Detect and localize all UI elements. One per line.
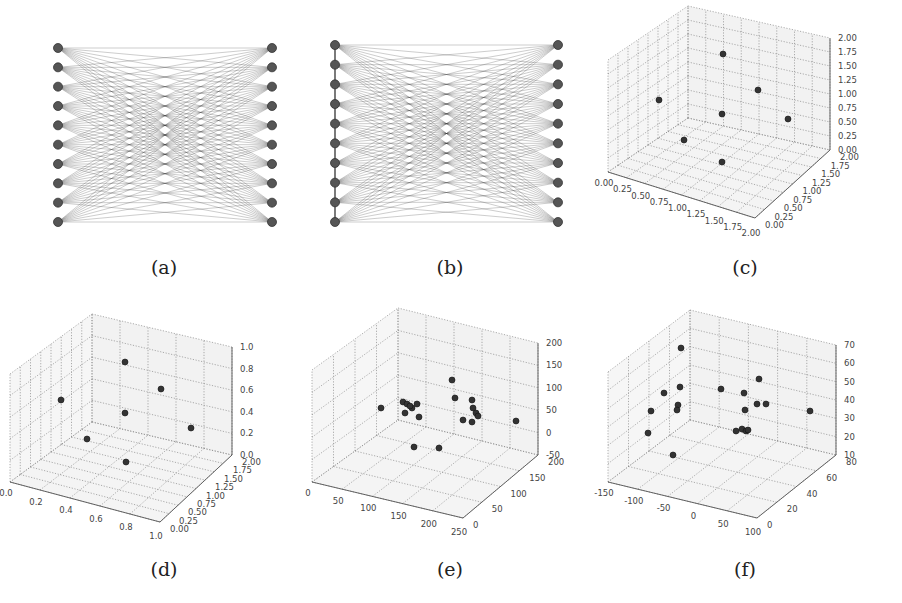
svg-text:40: 40 <box>844 395 855 405</box>
svg-text:0.50: 0.50 <box>784 203 803 213</box>
svg-text:0.25: 0.25 <box>613 184 632 194</box>
svg-text:0: 0 <box>305 488 310 498</box>
graph-node <box>268 82 277 91</box>
graph-node <box>268 44 277 53</box>
svg-text:1.50: 1.50 <box>705 216 724 226</box>
svg-text:0: 0 <box>473 520 478 530</box>
graph-node <box>268 140 277 149</box>
svg-text:0.50: 0.50 <box>838 117 857 127</box>
scatter3d-f: -150-100-5005010002040608010203040506070 <box>600 300 902 550</box>
data-point <box>402 410 408 416</box>
data-point <box>436 445 442 451</box>
data-point <box>123 459 129 465</box>
graph-node <box>268 198 277 207</box>
svg-text:150: 150 <box>546 360 562 370</box>
svg-text:50: 50 <box>546 405 557 415</box>
svg-text:1.0: 1.0 <box>240 342 254 352</box>
graph-node <box>54 198 63 207</box>
data-point <box>58 397 64 403</box>
data-point <box>411 444 417 450</box>
svg-text:150: 150 <box>390 511 406 521</box>
graph-node <box>268 121 277 130</box>
data-point <box>720 51 726 57</box>
graph-edges <box>335 45 558 222</box>
svg-text:2.00: 2.00 <box>742 228 761 238</box>
svg-text:0.0: 0.0 <box>0 488 13 498</box>
data-point <box>755 87 761 93</box>
data-point <box>648 408 654 414</box>
svg-text:1.00: 1.00 <box>668 203 687 213</box>
data-point <box>122 410 128 416</box>
data-point <box>754 401 760 407</box>
svg-text:0.6: 0.6 <box>240 385 254 395</box>
bipartite-graph-a <box>0 0 300 250</box>
svg-text:200: 200 <box>546 338 562 348</box>
panel-c-scatter3d: 0.000.250.500.751.001.251.501.752.000.00… <box>600 0 902 300</box>
svg-text:10: 10 <box>844 450 855 460</box>
data-point <box>513 418 519 424</box>
svg-text:100: 100 <box>511 489 527 499</box>
data-point <box>656 97 662 103</box>
data-point <box>674 407 680 413</box>
panel-b-bipartite-graph-chained: (b) <box>300 0 600 300</box>
svg-text:-150: -150 <box>594 488 613 498</box>
svg-text:-50: -50 <box>657 503 671 513</box>
data-point <box>756 376 762 382</box>
data-point <box>670 452 676 458</box>
svg-text:0.0: 0.0 <box>240 450 254 460</box>
svg-text:1.50: 1.50 <box>838 61 857 71</box>
svg-text:50: 50 <box>333 496 344 506</box>
svg-text:150: 150 <box>529 473 545 483</box>
svg-text:0.4: 0.4 <box>59 505 73 515</box>
data-point <box>122 359 128 365</box>
svg-text:0.8: 0.8 <box>240 364 254 374</box>
panel-e-scatter3d: 050100150200250050100150200-500501001502… <box>300 300 600 603</box>
svg-text:0.6: 0.6 <box>89 514 103 524</box>
scatter3d-c: 0.000.250.500.751.001.251.501.752.000.00… <box>600 0 902 250</box>
caption-f: (f) <box>715 558 775 580</box>
svg-text:1.75: 1.75 <box>831 161 850 171</box>
svg-text:30: 30 <box>844 413 855 423</box>
svg-text:0.00: 0.00 <box>595 178 614 188</box>
svg-text:100: 100 <box>360 503 376 513</box>
graph-node <box>54 63 63 72</box>
svg-text:250: 250 <box>451 527 467 537</box>
data-point <box>449 377 455 383</box>
scatter3d-d: 0.00.20.40.60.81.00.000.250.500.751.001.… <box>0 300 300 550</box>
data-point <box>414 401 420 407</box>
data-point <box>678 345 684 351</box>
data-point <box>460 417 466 423</box>
svg-text:0.8: 0.8 <box>119 522 133 532</box>
caption-c: (c) <box>715 256 775 278</box>
svg-text:1.0: 1.0 <box>149 531 163 541</box>
data-point <box>718 386 724 392</box>
svg-text:1.75: 1.75 <box>723 222 742 232</box>
svg-text:60: 60 <box>826 473 837 483</box>
data-point <box>719 159 725 165</box>
bipartite-graph-b <box>300 0 600 250</box>
data-point <box>742 407 748 413</box>
data-point <box>719 111 725 117</box>
svg-text:1.25: 1.25 <box>686 209 705 219</box>
data-point <box>469 397 475 403</box>
data-point <box>378 405 384 411</box>
svg-text:100: 100 <box>546 383 562 393</box>
svg-text:1.50: 1.50 <box>821 169 840 179</box>
svg-text:70: 70 <box>844 340 855 350</box>
data-point <box>807 408 813 414</box>
graph-node <box>268 160 277 169</box>
panel-a-bipartite-graph: (a) <box>0 0 300 300</box>
svg-text:0.2: 0.2 <box>29 497 43 507</box>
graph-edges <box>58 48 272 222</box>
data-point <box>785 116 791 122</box>
data-point <box>741 390 747 396</box>
svg-text:0.50: 0.50 <box>631 191 650 201</box>
graph-node <box>268 102 277 111</box>
data-point <box>645 430 651 436</box>
data-point <box>677 384 683 390</box>
svg-text:40: 40 <box>807 489 818 499</box>
svg-text:1.25: 1.25 <box>812 178 831 188</box>
data-point <box>763 401 769 407</box>
data-point <box>475 413 481 419</box>
svg-text:20: 20 <box>844 432 855 442</box>
